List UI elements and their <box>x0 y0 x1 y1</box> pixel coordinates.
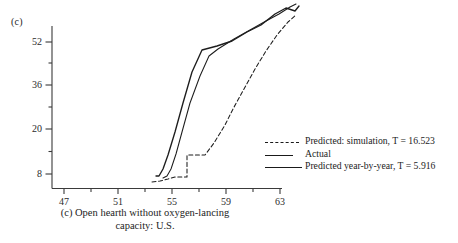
solid-line-swatch-icon <box>265 155 293 157</box>
x-tick-label-63: 63 <box>268 196 292 207</box>
caption-line-2: capacity: U.S. <box>115 220 174 231</box>
legend-item-predicted-simulation: Predicted: simulation, T = 16.523 <box>263 136 435 149</box>
figure-caption: (c) Open hearth without oxygen-lancing c… <box>0 207 290 232</box>
x-axis-ticks <box>64 189 280 195</box>
legend-item-predicted-year-by-year: Predicted year-by-year, T = 5.916 <box>263 161 435 174</box>
axis-lines <box>52 26 282 189</box>
x-tick-label-47: 47 <box>52 196 76 207</box>
legend-label: Actual <box>305 148 331 159</box>
y-tick-label-36: 36 <box>22 79 42 90</box>
y-tick-label-20: 20 <box>22 123 42 134</box>
y-axis-ticks <box>46 42 53 174</box>
solid-line-swatch-icon <box>265 167 302 168</box>
legend-label: Predicted: simulation, T = 16.523 <box>305 135 435 146</box>
caption-line-1: (c) Open hearth without oxygen-lancing <box>61 207 230 218</box>
y-tick-label-8: 8 <box>22 168 42 179</box>
y-tick-label-52: 52 <box>22 36 42 47</box>
x-tick-label-59: 59 <box>214 196 238 207</box>
legend-label: Predicted year-by-year, T = 5.916 <box>305 160 435 171</box>
x-tick-label-51: 51 <box>106 196 130 207</box>
x-tick-label-55: 55 <box>160 196 184 207</box>
dashed-line-swatch-icon <box>265 142 299 144</box>
chart-legend: Predicted: simulation, T = 16.523 Actual… <box>263 136 435 174</box>
